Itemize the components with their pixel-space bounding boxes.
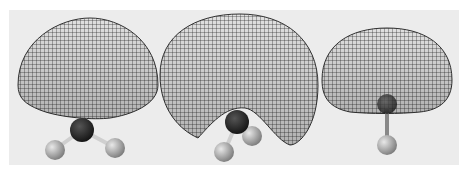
hydrogen-atom [45,140,65,160]
molecule-center [214,110,262,162]
molecule-right [377,94,397,155]
orbital-figure [0,0,467,178]
central-atom [225,110,249,134]
orbital-right [322,28,452,155]
orbital-left [18,18,158,160]
orbital-center [160,14,318,162]
central-atom [70,118,94,142]
hydrogen-atom [105,138,125,158]
hydrogen-atom [377,135,397,155]
central-atom [377,94,397,114]
molecule-left [45,118,125,160]
hydrogen-atom [214,142,234,162]
